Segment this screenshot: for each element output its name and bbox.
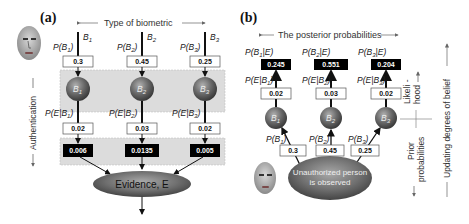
posterior-1-value: 0.245: [267, 61, 285, 68]
panel-b-header: The posterior probabilities: [278, 30, 382, 40]
svg-text:P(B2): P(B2): [117, 42, 138, 53]
bayesian-biometric-diagram: (a) Type of biometric Authentication B1 …: [0, 0, 469, 224]
svg-text:P(B3): P(B3): [348, 134, 369, 145]
panel-b: (b) The posterior probabilities P(B1|E) …: [240, 10, 452, 200]
prior-2-value: 0.45: [323, 147, 337, 154]
observation-line-2: is observed: [310, 178, 351, 187]
b2-prior-value: 0.45: [135, 58, 149, 65]
prior-3-value: 0.25: [358, 147, 372, 154]
panel-a-label: (a): [40, 10, 57, 26]
b2-likelihood-value: 0.03: [135, 125, 149, 132]
svg-text:P(B2): P(B2): [309, 134, 330, 145]
b3-prior-value: 0.25: [198, 58, 212, 65]
b1-joint-value: 0.006: [69, 147, 87, 154]
b3-likelihood-value: 0.02: [198, 125, 212, 132]
svg-text:P(B1|E): P(B1|E): [245, 47, 273, 58]
likelihood-axis: Likeli - hood: [402, 72, 422, 104]
updating-axis: Updating degrees of belief: [442, 44, 452, 197]
svg-text:P(E|B1): P(E|B1): [245, 75, 273, 86]
prior-1-value: 0.3: [288, 147, 298, 154]
face-icon-b: [254, 162, 276, 194]
b1-likelihood-value: 0.02: [71, 125, 85, 132]
posterior-column-2: P(B2|E) 0.551 P(E|B2) 0.03 B2 P(B2) 0.45: [302, 47, 348, 156]
likelihood-3-value: 0.02: [379, 90, 393, 97]
prior-label-2: probabilities: [416, 137, 426, 182]
prior-label-1: Prior: [406, 142, 416, 160]
panel-b-label: (b): [240, 10, 257, 26]
svg-text:P(B3): P(B3): [180, 42, 201, 53]
posterior-2-value: 0.551: [322, 61, 340, 68]
panel-a-header: Type of biometric: [104, 18, 173, 28]
svg-text:P(B1): P(B1): [266, 134, 287, 145]
authentication-axis-label: Authentication: [28, 96, 38, 150]
face-icon: [17, 26, 41, 60]
b1-prior-label: P(B1): [53, 42, 74, 53]
updating-label: Updating degrees of belief: [442, 78, 452, 178]
b1-prior-value: 0.3: [73, 58, 83, 65]
likelihood-label-2: hood: [412, 85, 422, 104]
svg-text:P(E|B3): P(E|B3): [357, 75, 385, 86]
svg-text:B2: B2: [147, 32, 157, 43]
svg-text:P(B2|E): P(B2|E): [302, 47, 330, 58]
svg-text:P(B3|E): P(B3|E): [358, 47, 386, 58]
b3-joint-value: 0.005: [196, 147, 214, 154]
likelihood-2-value: 0.03: [324, 90, 338, 97]
panel-a: (a) Type of biometric Authentication B1 …: [17, 10, 225, 214]
likelihood-label-1: Likeli -: [402, 79, 412, 104]
b2-joint-value: 0.0135: [131, 147, 153, 154]
posterior-3-value: 0.204: [377, 61, 395, 68]
posterior-column-3: P(B3|E) 0.204 P(E|B3) 0.02 B3 P(B3) 0.25: [348, 47, 401, 165]
posterior-column-1: P(B1|E) 0.245 P(E|B1) 0.02 B1 P(B1) 0.3: [245, 47, 306, 165]
b1-label: B1: [83, 32, 92, 43]
svg-text:P(E|B2): P(E|B2): [302, 75, 330, 86]
svg-text:B3: B3: [210, 32, 220, 43]
likelihood-1-value: 0.02: [269, 90, 283, 97]
observation-line-1: Unauthorized person: [293, 168, 367, 177]
evidence-label: Evidence, E: [115, 179, 169, 190]
prior-axis: Prior probabilities: [406, 137, 426, 196]
